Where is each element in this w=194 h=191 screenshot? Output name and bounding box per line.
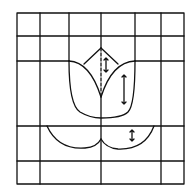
right-leaf	[101, 126, 154, 149]
left-leaf	[47, 126, 101, 148]
tulip-left-petal	[69, 61, 101, 97]
grid-lines	[17, 13, 184, 184]
tulip-pattern-diagram	[0, 0, 194, 191]
double-arrow-icons	[104, 58, 134, 141]
tulip-cup	[69, 61, 135, 118]
